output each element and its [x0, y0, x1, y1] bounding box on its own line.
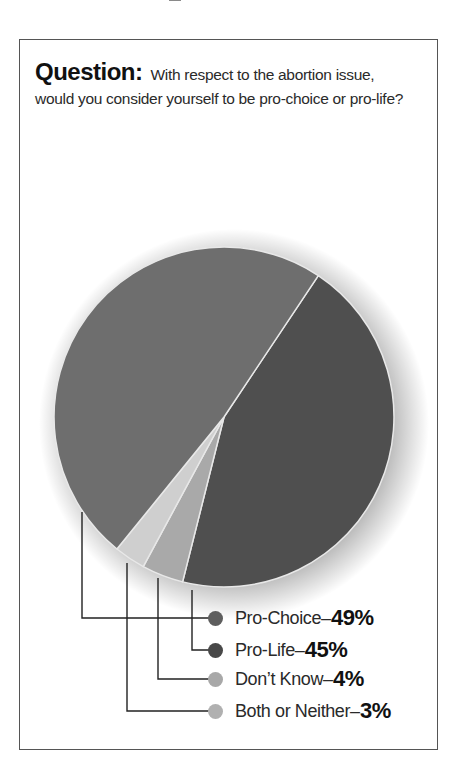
legend-separator: –: [295, 640, 305, 661]
legend-value: 45%: [305, 637, 348, 663]
legend-item-both-or-neither: Both or Neither–3%: [208, 697, 391, 725]
legend-dot-icon: [208, 704, 223, 719]
legend-value: 4%: [333, 666, 364, 692]
legend-item-pro-choice: Pro-Choice–49%: [208, 604, 374, 632]
legend-label: Don’t Know: [235, 669, 323, 690]
legend-item-dont-know: Don’t Know–4%: [208, 665, 364, 693]
legend-value: 3%: [360, 698, 391, 724]
legend-value: 49%: [331, 605, 374, 631]
legend-dot-icon: [208, 611, 223, 626]
legend-dot-icon: [208, 643, 223, 658]
legend-label: Pro-Life: [235, 640, 295, 661]
legend-label: Pro-Choice: [235, 608, 321, 629]
legend-separator: –: [350, 701, 360, 722]
legend-dot-icon: [208, 672, 223, 687]
pie-slices: [54, 247, 394, 587]
legend-label: Both or Neither: [235, 701, 350, 722]
legend-separator: –: [321, 608, 331, 629]
legend-item-pro-life: Pro-Life–45%: [208, 636, 347, 664]
legend-separator: –: [323, 669, 333, 690]
